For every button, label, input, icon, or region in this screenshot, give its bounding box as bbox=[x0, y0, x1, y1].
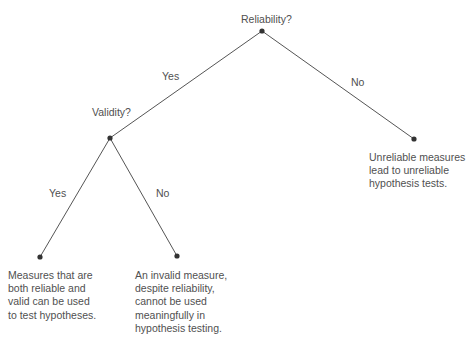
node-validity bbox=[107, 135, 112, 140]
edge-label-validity-yes: Yes bbox=[49, 187, 66, 200]
question-reliability: Reliability? bbox=[241, 13, 292, 26]
node-invalid bbox=[174, 253, 179, 258]
outcome-valid: Measures that are both reliable and vali… bbox=[8, 269, 96, 322]
edge-label-root-no: No bbox=[351, 76, 364, 89]
outcome-invalid: An invalid measure, despite reliability,… bbox=[135, 269, 227, 335]
node-valid bbox=[37, 254, 42, 259]
edge-label-validity-no: No bbox=[156, 187, 169, 200]
edge-root-no bbox=[262, 31, 414, 139]
question-validity: Validity? bbox=[92, 106, 131, 119]
edge-label-root-yes: Yes bbox=[162, 70, 179, 83]
node-root bbox=[259, 28, 264, 33]
outcome-unreliable: Unreliable measures lead to unreliable h… bbox=[369, 151, 465, 191]
node-unreliable bbox=[411, 136, 416, 141]
edge-root-yes bbox=[110, 31, 262, 138]
